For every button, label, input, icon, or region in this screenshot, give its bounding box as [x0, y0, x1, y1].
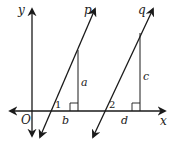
x-axis-label: x [160, 114, 167, 128]
angle-2-label: 2 [109, 99, 115, 110]
segment-b-label: b [62, 114, 69, 127]
line-p-label: p [84, 3, 92, 17]
origin-label: O [21, 113, 31, 127]
segment-a-label: a [81, 76, 88, 89]
line-q-label: q [138, 3, 146, 17]
segment-c-label: c [143, 70, 149, 83]
right-angle-marker-c [132, 103, 140, 111]
diagram-figure: y x O p q a c b d 1 2 [0, 0, 179, 141]
angle-1-label: 1 [55, 99, 61, 110]
segment-d-label: d [121, 114, 128, 127]
y-axis-label: y [17, 3, 25, 17]
right-angle-marker-a [70, 103, 78, 111]
